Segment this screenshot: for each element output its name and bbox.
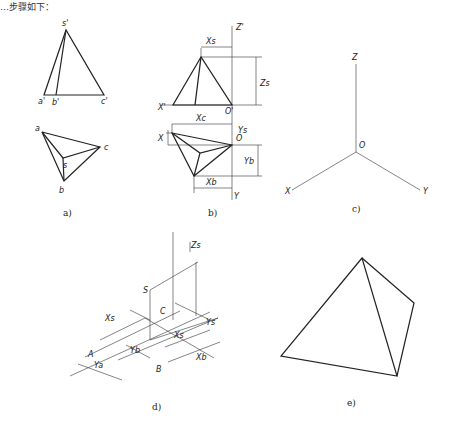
label-a-prime: a' [38, 97, 45, 106]
label-ys-d: Ys [206, 318, 215, 327]
label-zs-d: Zs [190, 241, 201, 250]
label-x-prime: X' [157, 103, 166, 112]
caption-b: b) [208, 208, 217, 218]
diagram-canvas: s' a' b' c' a c s b a) Z' [0, 0, 449, 426]
label-yb-d: Yb [130, 346, 140, 355]
label-z-prime: Z' [235, 23, 244, 32]
label-xs-d: Xs [104, 314, 115, 323]
label-b: b [59, 186, 64, 195]
label-o-origin: O [359, 141, 365, 150]
label-xs-front: Xs [205, 37, 216, 46]
pyramid-front-face [281, 258, 397, 376]
label-y: Y [234, 192, 240, 201]
figure-d: Zs S C Xs Ys Xs A Ya Yb B Xb d) [70, 232, 220, 412]
figure-c: Z O X Y c) [284, 53, 429, 214]
label-b-prime: b' [52, 98, 59, 107]
label-a: a [35, 124, 40, 133]
caption-c: c) [352, 204, 361, 214]
label-o: O [236, 134, 242, 143]
label-zs: Zs [259, 79, 270, 88]
front-view-triangle [44, 30, 104, 95]
figure-e: e) [281, 258, 414, 408]
label-z: Z [351, 53, 358, 62]
label-ys: Ys [238, 126, 247, 135]
caption-e: e) [347, 398, 356, 408]
label-xb: Xb [205, 178, 217, 187]
label-x-axis: X [284, 187, 291, 196]
label-xs-inner-d: Xs [173, 331, 184, 340]
label-o-prime: O' [225, 107, 234, 116]
figure-a: s' a' b' c' a c s b a) [35, 19, 109, 218]
caption-d: d) [152, 402, 161, 412]
label-x: X [157, 134, 164, 143]
label-c-prime: c' [101, 97, 108, 106]
label-xc: Xc [195, 114, 206, 123]
label-s: s [63, 161, 67, 170]
label-xb-d: Xb [195, 353, 207, 362]
caption-a: a) [63, 208, 72, 218]
label-c-d: C [160, 307, 166, 316]
label-yb: Yb [244, 157, 254, 166]
figure-b: Z' Xs Zs X' O' Xc X O Ys Yb Xb Y b) [157, 23, 270, 218]
label-ya-d: Ya [94, 361, 103, 370]
label-s-d: S [143, 286, 148, 295]
label-b-d: B [156, 365, 162, 374]
label-c: c [104, 143, 109, 152]
label-y-axis: Y [423, 187, 429, 196]
label-s-prime: s' [62, 19, 68, 28]
label-a-d: A [87, 350, 93, 359]
